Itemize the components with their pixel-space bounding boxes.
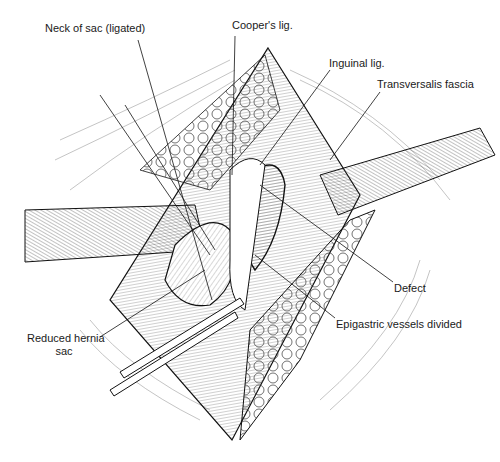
label-neck-of-sac: Neck of sac (ligated) [45,22,145,35]
retractor-right [320,128,495,215]
label-transversalis-fascia: Transversalis fascia [377,78,474,91]
label-inguinal-ligament: Inguinal lig. [329,57,385,70]
label-epigastric-vessels: Epigastric vessels divided [336,318,462,331]
label-reduced-hernia-sac-line1: Reduced hernia [27,332,101,345]
label-reduced-hernia-sac: Reduced hernia sac [27,332,101,358]
label-defect: Defect [394,282,426,295]
surgical-illustration [0,0,500,462]
label-reduced-hernia-sac-line2: sac [27,345,101,358]
label-coopers-ligament: Cooper's lig. [232,19,293,32]
